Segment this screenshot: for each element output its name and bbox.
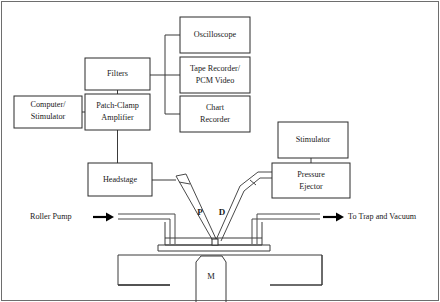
pipette-p-wall-left [176, 176, 213, 241]
box-headstage[interactable]: Headstage [88, 163, 152, 196]
diagram-root: P D M Roller Pump [0, 0, 440, 302]
microscope-stage-body [118, 255, 322, 285]
box-filters[interactable]: Filters [85, 58, 150, 90]
objective-label: M [207, 271, 215, 281]
computer-stimulator-label-line1: Computer/ [30, 100, 66, 109]
pipette-d-label: D [219, 207, 226, 217]
chart-recorder-label-line1: Chart [206, 103, 225, 112]
headstage-label: Headstage [103, 175, 137, 184]
box-stimulator[interactable]: Stimulator [278, 122, 348, 158]
filters-label: Filters [107, 69, 128, 78]
pressure-ejector-label-line2: Ejector [299, 182, 323, 191]
cell-marker [212, 239, 218, 245]
inflow-tube-inner [118, 219, 170, 244]
box-chart-recorder[interactable]: Chart Recorder [180, 96, 250, 132]
chart-recorder-label-line2: Recorder [200, 115, 230, 124]
tape-recorder-label-line2: PCM Video [196, 76, 235, 85]
box-tape-recorder[interactable]: Tape Recorder/ PCM Video [180, 57, 250, 93]
computer-stimulator-label-line2: Stimulator [31, 112, 66, 121]
outlet-flow-arrow [323, 213, 344, 222]
box-patch-clamp-amplifier[interactable]: Patch-Clamp Amplifier [85, 94, 150, 130]
pressure-ejector-label-line1: Pressure [297, 170, 325, 179]
rig-schematic-figure: P D M Roller Pump [0, 0, 440, 302]
box-computer-stimulator[interactable]: Computer/ Stimulator [14, 96, 82, 128]
roller-pump-label: Roller Pump [30, 212, 72, 221]
patch-clamp-amplifier-label-line2: Amplifier [101, 113, 134, 122]
patch-clamp-amplifier-label-line1: Patch-Clamp [96, 101, 139, 110]
oscilloscope-label: Oscilloscope [194, 30, 237, 39]
pipette-d-wall-lower [221, 178, 272, 241]
pipette-p-back-cap [176, 174, 186, 176]
stimulator-label: Stimulator [296, 135, 331, 144]
box-oscilloscope[interactable]: Oscilloscope [180, 17, 250, 53]
pipette-p-label: P [197, 207, 203, 217]
inlet-flow-arrow [93, 213, 114, 222]
to-trap-vacuum-label: To Trap and Vacuum [348, 212, 417, 221]
tape-recorder-label-line1: Tape Recorder/ [190, 64, 241, 73]
pipette-d-wall-upper [216, 172, 272, 240]
bath-base-slab [158, 245, 270, 251]
box-pressure-ejector[interactable]: Pressure Ejector [272, 163, 350, 198]
